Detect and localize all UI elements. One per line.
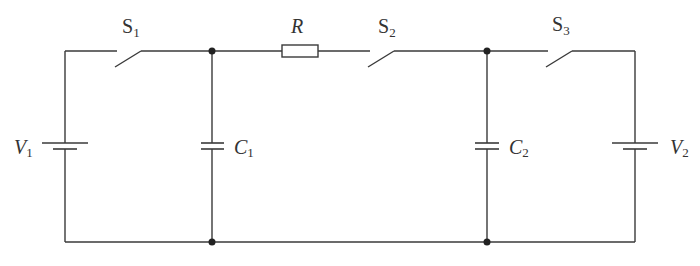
- label-v2: V2: [670, 136, 689, 160]
- switch-s3-blade: [546, 51, 572, 67]
- capacitor-c2: [475, 143, 499, 149]
- label-s3: S3: [552, 13, 570, 38]
- label-c1: C1: [234, 136, 254, 160]
- circuit-diagram: S1 R S2 S3 V1 C1 C2 V2: [0, 0, 700, 266]
- battery-v1: [42, 143, 88, 149]
- capacitor-c1: [201, 143, 224, 149]
- junction-node-c1-bottom: [209, 239, 216, 246]
- label-c2: C2: [509, 136, 529, 160]
- switch-s2-blade: [368, 51, 394, 67]
- switch-s3: [546, 51, 572, 67]
- switch-s1: [115, 51, 141, 67]
- label-s2: S2: [378, 15, 396, 40]
- label-v1: V1: [14, 136, 33, 160]
- junction-node-c1-top: [209, 48, 216, 55]
- battery-v2: [612, 143, 658, 149]
- label-s1: S1: [122, 15, 140, 40]
- switch-s1-blade: [115, 51, 141, 67]
- label-r: R: [290, 15, 303, 37]
- resistor-r: [282, 45, 318, 57]
- junction-node-c2-bottom: [484, 239, 491, 246]
- switch-s2: [368, 51, 394, 67]
- junction-node-c2-top: [484, 48, 491, 55]
